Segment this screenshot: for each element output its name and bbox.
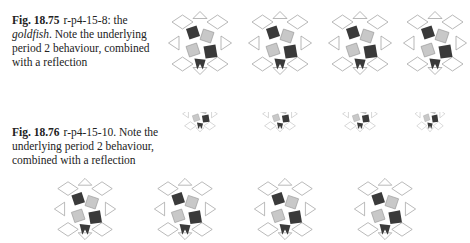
tiling-panel — [245, 112, 315, 152]
figure-label: Fig. 18.75 — [12, 14, 60, 26]
tiling-panel — [245, 8, 315, 78]
tiling-panel — [245, 175, 325, 243]
figure-label: Fig. 18.76 — [12, 126, 60, 138]
tiling-panel — [165, 112, 235, 152]
tiling-panel — [345, 175, 425, 243]
tiling-panel — [400, 8, 470, 78]
tiling-panel — [325, 112, 395, 152]
figure-caption-18-75: Fig. 18.75r-p4-15-8: the goldfish. Note … — [12, 13, 162, 69]
tiling-panel — [325, 8, 395, 78]
figure-caption-18-76: Fig. 18.76r-p4-15-10. Note the underlyin… — [12, 125, 162, 167]
tiling-panel — [165, 8, 235, 78]
tiling-panel — [45, 175, 125, 243]
tiling-panel — [400, 112, 460, 152]
tiling-panel — [145, 175, 225, 243]
